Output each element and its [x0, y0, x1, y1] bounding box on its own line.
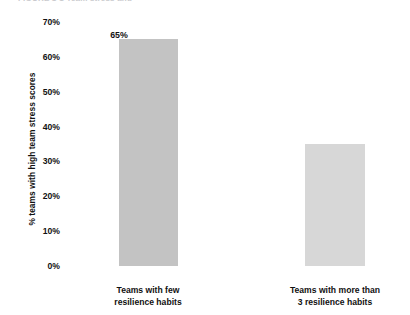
x-axis-category-line: resilience habits — [73, 296, 223, 308]
y-tick-label: 30% — [14, 156, 60, 166]
y-tick-label: 50% — [14, 87, 60, 97]
x-axis-category-line: 3 resilience habits — [260, 296, 410, 308]
x-axis-category-line: Teams with more than — [260, 284, 410, 296]
y-tick-label: 0% — [14, 261, 60, 271]
y-tick-label: 40% — [14, 122, 60, 132]
y-tick-label: 60% — [14, 52, 60, 62]
bar-teams-with-more-than-3-resilience-habits[interactable] — [305, 144, 365, 266]
x-axis-category-line: Teams with few — [73, 284, 223, 296]
bar-teams-with-few-resilience-habits[interactable] — [119, 39, 178, 266]
y-tick-label: 20% — [14, 191, 60, 201]
y-axis-ticks: 70% 60% 50% 40% 30% 20% 10% 0% — [14, 0, 60, 315]
x-axis-category-label: Teams with few resilience habits — [73, 284, 223, 309]
y-tick-label: 10% — [14, 226, 60, 236]
x-axis-category-label: Teams with more than 3 resilience habits — [260, 284, 410, 309]
bar-chart: % teams with high team stress scores 70%… — [0, 0, 410, 315]
y-tick-label: 70% — [14, 17, 60, 27]
